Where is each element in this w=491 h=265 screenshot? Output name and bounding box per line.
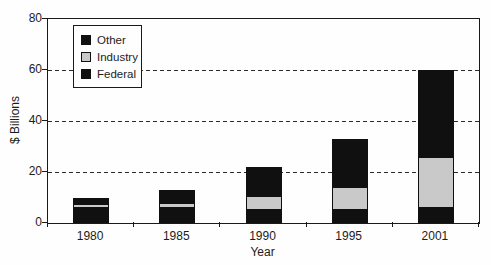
y-tick-label-80: 80 bbox=[0, 11, 42, 25]
bar-group-1995 bbox=[332, 139, 368, 223]
x-tick-label-1990: 1990 bbox=[219, 229, 305, 243]
legend-item-other: Other bbox=[81, 31, 141, 48]
bar-segment-1995-federal bbox=[332, 210, 368, 223]
bar-segment-1990-industry bbox=[246, 196, 282, 210]
bar-segment-2001-other bbox=[418, 70, 454, 157]
bar-group-2001 bbox=[418, 70, 454, 223]
bar-segment-2001-federal bbox=[418, 208, 454, 223]
y-tick-80 bbox=[42, 18, 47, 19]
legend-label-federal: Federal bbox=[97, 68, 136, 80]
bar-segment-1995-other bbox=[332, 139, 368, 187]
bar-group-1990 bbox=[246, 167, 282, 223]
stacked-bar-chart: $ Billions Other Industry Federal Year 0… bbox=[0, 0, 491, 265]
legend-item-industry: Industry bbox=[81, 48, 141, 65]
bar-segment-1985-other bbox=[159, 190, 195, 203]
x-tick-label-2001: 2001 bbox=[392, 229, 478, 243]
x-tick-5 bbox=[478, 222, 479, 227]
x-tick-2 bbox=[219, 222, 220, 227]
legend-swatch-federal bbox=[81, 69, 91, 79]
x-tick-label-1985: 1985 bbox=[133, 229, 219, 243]
x-tick-3 bbox=[306, 222, 307, 227]
bar-segment-1995-industry bbox=[332, 187, 368, 210]
legend-swatch-industry bbox=[81, 52, 91, 62]
x-tick-1 bbox=[133, 222, 134, 227]
x-tick-label-1995: 1995 bbox=[306, 229, 392, 243]
y-tick-label-0: 0 bbox=[0, 215, 42, 229]
y-tick-20 bbox=[42, 171, 47, 172]
bar-segment-1990-other bbox=[246, 167, 282, 196]
x-tick-label-1980: 1980 bbox=[47, 229, 133, 243]
bar-segment-2001-industry bbox=[418, 157, 454, 208]
bar-group-1980 bbox=[73, 197, 109, 223]
bar-segment-1980-federal bbox=[73, 208, 109, 223]
x-tick-0 bbox=[47, 222, 48, 227]
legend-item-federal: Federal bbox=[81, 65, 141, 82]
bar-segment-1980-industry bbox=[73, 204, 109, 208]
x-tick-4 bbox=[392, 222, 393, 227]
bar-segment-1985-industry bbox=[159, 203, 195, 208]
y-tick-label-60: 60 bbox=[0, 62, 42, 76]
bar-segment-1990-federal bbox=[246, 210, 282, 223]
y-tick-40 bbox=[42, 120, 47, 121]
legend-label-other: Other bbox=[97, 34, 126, 46]
legend-label-industry: Industry bbox=[97, 51, 138, 63]
bar-segment-1985-federal bbox=[159, 208, 195, 223]
y-tick-label-40: 40 bbox=[0, 113, 42, 127]
bar-segment-1980-other bbox=[73, 198, 109, 204]
x-axis-title: Year bbox=[47, 245, 478, 259]
y-tick-60 bbox=[42, 69, 47, 70]
bar-group-1985 bbox=[159, 190, 195, 223]
gridline-40 bbox=[48, 121, 479, 122]
legend: Other Industry Federal bbox=[73, 25, 142, 88]
legend-swatch-other bbox=[81, 35, 91, 45]
y-tick-label-20: 20 bbox=[0, 164, 42, 178]
